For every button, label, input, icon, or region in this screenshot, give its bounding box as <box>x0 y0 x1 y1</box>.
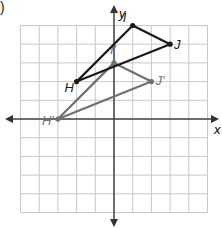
y-axis-down-arrow-icon <box>110 219 118 227</box>
x-axis-left-arrow-icon <box>5 115 13 123</box>
y-axis-up-arrow-icon <box>110 5 118 13</box>
vertex-point <box>74 79 79 84</box>
coordinate-plane: H'I'J'HIJ y x ) <box>0 0 222 228</box>
vertex-label: J' <box>154 73 165 88</box>
vertex-point <box>130 23 135 28</box>
vertex-point <box>168 42 173 47</box>
part-marker: ) <box>0 0 5 15</box>
vertex-label: H' <box>42 113 54 128</box>
vertex-label: H <box>65 80 75 95</box>
vertex-point <box>111 60 116 65</box>
vertex-label: J <box>173 37 181 52</box>
x-axis-label: x <box>213 122 221 137</box>
vertex-point <box>55 116 60 121</box>
vertex-point <box>149 79 154 84</box>
